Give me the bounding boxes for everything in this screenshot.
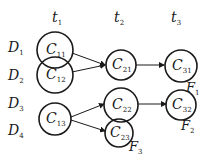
cluster-label-subscript: 21	[123, 66, 132, 74]
cluster-label-base: C	[172, 57, 183, 73]
clusters: C11C12C13C21C22C23C31C32	[37, 32, 197, 147]
cluster-label-subscript: 13	[57, 120, 66, 128]
data-label-d3: D3	[7, 95, 24, 113]
data-label-d4: D4	[7, 122, 24, 140]
final-label-f1-subscript: 1	[195, 89, 199, 97]
cluster-label: C12	[46, 66, 66, 84]
data-label-d1-base: D	[7, 39, 19, 55]
final-label-f3-subscript: 3	[138, 148, 142, 156]
edge-c13-to-c23	[71, 120, 105, 131]
time-label-t3-subscript: 3	[177, 19, 181, 27]
cluster-label-base: C	[46, 66, 57, 82]
cluster-label-base: C	[46, 110, 57, 126]
cluster-label: C23	[110, 124, 130, 142]
labels: t1t2t3D1D2D3D4F1F2F3	[7, 9, 200, 156]
cluster-label: C31	[172, 57, 192, 75]
cluster-c13: C13	[39, 103, 71, 135]
time-label-t1: t1	[52, 9, 62, 27]
cluster-evolution-diagram: C11C12C13C21C22C23C31C32 t1t2t3D1D2D3D4F…	[0, 0, 204, 161]
data-label-d1-subscript: 1	[19, 49, 23, 57]
cluster-label-base: C	[112, 96, 123, 112]
time-label-t1-subscript: 1	[58, 19, 62, 27]
data-label-d3-base: D	[7, 95, 19, 111]
data-label-d3-subscript: 3	[19, 105, 23, 113]
data-label-d4-base: D	[7, 122, 19, 138]
cluster-label: C32	[172, 96, 192, 114]
edge-c13-to-c22	[71, 104, 104, 117]
cluster-label: C21	[112, 56, 132, 74]
data-label-d2: D2	[7, 67, 24, 85]
cluster-label: C13	[46, 110, 66, 128]
time-label-t2-subscript: 2	[120, 19, 124, 27]
cluster-c31: C31	[165, 50, 197, 82]
time-label-t2: t2	[114, 9, 124, 27]
cluster-label-subscript: 12	[57, 76, 66, 84]
cluster-c12: C12	[37, 57, 73, 93]
cluster-c21: C21	[106, 50, 136, 80]
edge-c12-to-c21	[72, 65, 105, 72]
data-label-d4-subscript: 4	[19, 132, 24, 140]
cluster-label-subscript: 32	[183, 106, 192, 114]
time-label-t3: t3	[171, 9, 181, 27]
edge-c11-to-c21	[72, 53, 105, 65]
data-label-d1: D1	[7, 39, 24, 57]
cluster-label-base: C	[172, 96, 183, 112]
cluster-label: C22	[112, 96, 132, 114]
cluster-label-base: C	[110, 124, 121, 140]
final-label-f2: F2	[180, 118, 195, 135]
data-label-d2-subscript: 2	[19, 77, 23, 85]
cluster-c22: C22	[104, 88, 138, 122]
data-label-d2-base: D	[7, 67, 19, 83]
cluster-label-subscript: 22	[123, 106, 132, 114]
final-label-f2-subscript: 2	[190, 127, 194, 135]
final-label-f3: F3	[128, 139, 143, 156]
cluster-label-base: C	[112, 56, 123, 72]
final-label-f1: F1	[185, 80, 200, 97]
cluster-label-subscript: 31	[183, 67, 192, 75]
cluster-label-base: C	[46, 41, 57, 57]
